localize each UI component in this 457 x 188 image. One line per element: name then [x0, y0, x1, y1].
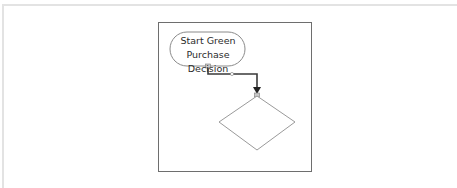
flowchart-shapes: [0, 0, 457, 188]
start-terminator-label: Start Green Purchase Decision: [170, 34, 246, 76]
decision-diamond[interactable]: [219, 96, 295, 150]
label-line-1: Start Green: [170, 34, 246, 48]
label-line-2: Purchase Decision: [170, 48, 246, 76]
